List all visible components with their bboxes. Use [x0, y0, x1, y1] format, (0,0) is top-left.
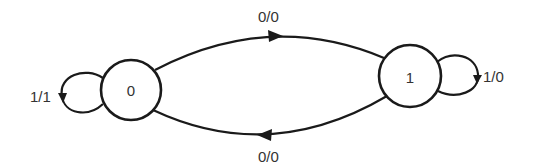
state-label-1: 1 — [406, 69, 414, 86]
state-node-0: 0 — [101, 60, 161, 120]
arrow-head-icon — [58, 93, 67, 103]
self-loop-label-1: 1/0 — [483, 68, 504, 85]
arrow-head-icon — [268, 30, 283, 42]
transition-label-top: 0/0 — [258, 8, 279, 25]
state-diagram: 0/0 0/0 1/1 1/0 0 1 — [0, 0, 534, 166]
arrow-head-icon — [257, 129, 272, 141]
transition-label-bottom: 0/0 — [258, 148, 279, 165]
state-node-1: 1 — [379, 45, 441, 107]
transition-1-to-0 — [153, 96, 387, 134]
arrow-head-icon — [473, 75, 482, 84]
state-label-0: 0 — [127, 82, 135, 99]
self-loop-1 — [437, 56, 478, 95]
self-loop-label-0: 1/1 — [30, 88, 51, 105]
self-loop-0 — [62, 73, 103, 113]
